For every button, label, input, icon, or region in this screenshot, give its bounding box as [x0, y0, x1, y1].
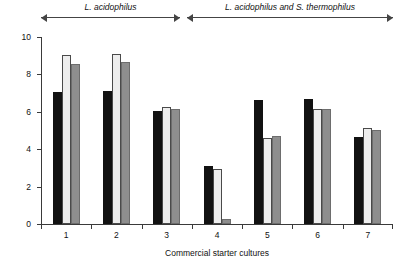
- x-tick-label: 5: [265, 231, 270, 240]
- x-tick: [91, 225, 92, 229]
- bar-light-bar-group-2: [112, 54, 121, 224]
- x-axis-line: [41, 224, 393, 225]
- species-annotation-2-label: L. acidophilus and S. thermophilus: [187, 2, 393, 12]
- bar-black-bar-group-7: [354, 137, 363, 224]
- x-tick: [142, 225, 143, 229]
- x-tick: [192, 225, 193, 229]
- x-axis-title: Commercial starter cultures: [41, 248, 393, 258]
- y-tick-label: 6: [26, 107, 31, 116]
- bar-light-bar-group-7: [363, 128, 372, 224]
- bar-black-bar-group-6: [304, 99, 313, 224]
- arrow-left-icon: [41, 14, 47, 22]
- y-tick: 4: [37, 149, 41, 150]
- y-tick: 8: [37, 74, 41, 75]
- plot-area: 0246810 1234567: [41, 37, 393, 225]
- bar-light-bar-group-3: [162, 107, 171, 224]
- arrow-right-icon: [174, 14, 180, 22]
- arrow-right-icon: [387, 14, 393, 22]
- bar-black-bar-group-1: [53, 92, 62, 224]
- bar-light-bar-group-6: [313, 109, 322, 224]
- x-tick-label: 1: [64, 231, 69, 240]
- y-tick: 2: [37, 187, 41, 188]
- y-tick: 10: [37, 37, 41, 38]
- y-axis-line: [41, 37, 42, 225]
- bar-black-bar-group-2: [103, 91, 112, 224]
- bar-gray-bar-group-5: [272, 136, 281, 224]
- x-tick-label: 6: [315, 231, 320, 240]
- bar-chart-figure: L. acidophilus L. acidophilus and S. the…: [0, 0, 419, 266]
- x-tick: [343, 225, 344, 229]
- y-tick-label: 8: [26, 70, 31, 79]
- y-tick-label: 10: [22, 33, 31, 42]
- bar-gray-bar-group-4: [222, 219, 231, 224]
- annotation-line: [187, 17, 393, 18]
- x-tick: [392, 225, 393, 229]
- x-tick: [242, 225, 243, 229]
- bar-gray-bar-group-3: [171, 109, 180, 224]
- y-tick-label: 0: [26, 220, 31, 229]
- bar-light-bar-group-4: [213, 169, 222, 224]
- bar-gray-bar-group-7: [372, 130, 381, 225]
- x-tick-label: 4: [215, 231, 220, 240]
- bar-black-bar-group-3: [153, 111, 162, 224]
- x-tick: [41, 225, 42, 229]
- bar-black-bar-group-4: [204, 166, 213, 224]
- bar-gray-bar-group-1: [71, 64, 80, 224]
- bar-gray-bar-group-6: [322, 109, 331, 224]
- bar-black-bar-group-5: [254, 100, 263, 224]
- x-tick-label: 3: [164, 231, 169, 240]
- bar-gray-bar-group-2: [121, 62, 130, 224]
- species-annotation-2: L. acidophilus and S. thermophilus: [187, 2, 393, 26]
- arrow-left-icon: [187, 14, 193, 22]
- y-tick-label: 2: [26, 182, 31, 191]
- bar-light-bar-group-1: [62, 55, 71, 224]
- y-tick: 6: [37, 112, 41, 113]
- species-annotation-1-label: L. acidophilus: [41, 2, 180, 12]
- annotation-line: [41, 17, 180, 18]
- x-tick: [292, 225, 293, 229]
- bar-light-bar-group-5: [263, 138, 272, 224]
- x-tick-label: 7: [365, 231, 370, 240]
- species-annotation-1: L. acidophilus: [41, 2, 180, 26]
- y-tick-label: 4: [26, 145, 31, 154]
- x-tick-label: 2: [114, 231, 119, 240]
